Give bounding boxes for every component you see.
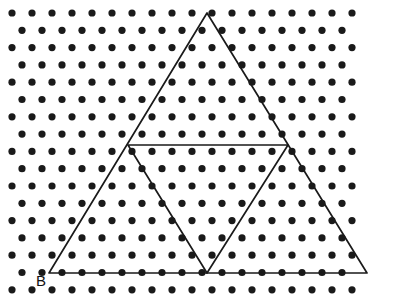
lattice-dot xyxy=(108,44,115,51)
lattice-dot xyxy=(228,182,235,189)
lattice-dot xyxy=(68,148,75,155)
lattice-dot xyxy=(328,113,335,120)
lattice-dot xyxy=(108,113,115,120)
lattice-dot xyxy=(268,286,275,293)
lattice-dot xyxy=(328,182,335,189)
lattice-dot xyxy=(218,200,225,207)
lattice-dot xyxy=(288,286,295,293)
lattice-dot xyxy=(238,200,245,207)
lattice-dot xyxy=(288,79,295,86)
lattice-dot xyxy=(78,165,85,172)
lattice-dot xyxy=(168,286,175,293)
figure-canvas: B xyxy=(0,0,406,302)
lattice-dot xyxy=(8,252,15,259)
lattice-dot xyxy=(118,61,125,68)
lattice-dot xyxy=(348,217,355,224)
lattice-dot xyxy=(118,200,125,207)
lattice-dot xyxy=(28,286,35,293)
lattice-dot xyxy=(348,148,355,155)
lattice-dot xyxy=(78,200,85,207)
lattice-dot xyxy=(328,286,335,293)
lattice-dot xyxy=(18,200,25,207)
lattice-dot xyxy=(188,148,195,155)
lattice-dot xyxy=(78,131,85,138)
lattice-dot xyxy=(208,286,215,293)
lattice-dot xyxy=(348,182,355,189)
lattice-dot xyxy=(288,217,295,224)
lattice-dot xyxy=(178,61,185,68)
lattice-dot xyxy=(68,182,75,189)
lattice-dot xyxy=(208,148,215,155)
lattice-dot xyxy=(228,217,235,224)
lattice-dot xyxy=(8,44,15,51)
lattice-dot xyxy=(168,79,175,86)
lattice-dot xyxy=(208,44,215,51)
lattice-dot xyxy=(218,131,225,138)
lattice-dot xyxy=(78,96,85,103)
lattice-dot xyxy=(128,182,135,189)
lattice-dot xyxy=(98,234,105,241)
lattice-dot xyxy=(348,44,355,51)
lattice-dot xyxy=(188,9,195,16)
lattice-dot xyxy=(58,200,65,207)
lattice-dot xyxy=(328,9,335,16)
lattice-dot xyxy=(198,200,205,207)
lattice-dot xyxy=(238,96,245,103)
lattice-dot xyxy=(308,148,315,155)
lattice-dot xyxy=(128,9,135,16)
lattice-dot xyxy=(198,61,205,68)
lattice-dot xyxy=(88,44,95,51)
lattice-dot xyxy=(188,113,195,120)
lattice-dot xyxy=(18,165,25,172)
lattice-dot xyxy=(248,148,255,155)
lattice-dot xyxy=(318,165,325,172)
lattice-dot xyxy=(48,9,55,16)
lattice-dot xyxy=(198,27,205,34)
lattice-dot xyxy=(268,79,275,86)
lattice-dot xyxy=(28,79,35,86)
lattice-dot xyxy=(248,9,255,16)
lattice-dot xyxy=(328,252,335,259)
lattice-dot xyxy=(338,200,345,207)
lattice-dot xyxy=(148,148,155,155)
lattice-dot xyxy=(88,217,95,224)
lattice-dot xyxy=(158,234,165,241)
lattice-dot xyxy=(128,79,135,86)
lattice-dot xyxy=(328,44,335,51)
lattice-dot xyxy=(278,200,285,207)
lattice-dot xyxy=(238,27,245,34)
lattice-dot xyxy=(18,131,25,138)
lattice-dot xyxy=(188,217,195,224)
lattice-dot xyxy=(148,252,155,259)
lattice-dot xyxy=(208,252,215,259)
lattice-dot xyxy=(218,234,225,241)
lattice-dot xyxy=(228,9,235,16)
lattice-dot xyxy=(338,165,345,172)
lattice-dot xyxy=(288,113,295,120)
lattice-dot xyxy=(248,113,255,120)
lattice-dot xyxy=(58,165,65,172)
lattice-dot xyxy=(148,44,155,51)
lattice-dot xyxy=(68,286,75,293)
lattice-dot xyxy=(68,113,75,120)
lattice-dot xyxy=(38,200,45,207)
lattice-dot xyxy=(308,9,315,16)
lattice-dot xyxy=(48,252,55,259)
lattice-dot xyxy=(348,113,355,120)
lattice-dot xyxy=(138,96,145,103)
vertex-label-b: B xyxy=(36,272,46,289)
lattice-dot xyxy=(188,182,195,189)
lattice-dot xyxy=(218,165,225,172)
figure-background xyxy=(0,0,406,302)
lattice-dot xyxy=(308,113,315,120)
lattice-dot xyxy=(178,96,185,103)
lattice-dot xyxy=(88,9,95,16)
lattice-dot xyxy=(18,27,25,34)
lattice-dot xyxy=(28,113,35,120)
lattice-dot xyxy=(208,79,215,86)
lattice-dot xyxy=(228,148,235,155)
lattice-dot xyxy=(348,9,355,16)
lattice-dot xyxy=(198,131,205,138)
lattice-dot xyxy=(158,61,165,68)
lattice-dot xyxy=(158,165,165,172)
